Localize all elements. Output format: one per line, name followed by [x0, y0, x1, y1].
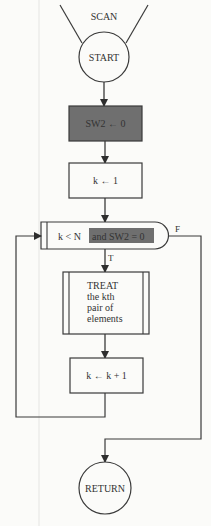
loop-test-condition-plain: k < N [58, 231, 81, 242]
true-branch-label: T [108, 253, 114, 263]
edge-loop-test-false [105, 236, 201, 462]
loop-test-condition-highlighted: and SW2 = 0 [92, 231, 145, 242]
return-node: RETURN [79, 462, 131, 514]
treat-line-2: the kth [87, 291, 115, 302]
increment-node: k ← k + 1 [70, 358, 143, 393]
init-sw2-label: SW2 ← 0 [86, 118, 126, 129]
loop-test-node: k < N and SW2 = 0 [41, 222, 169, 249]
start-node: START [79, 32, 129, 82]
start-label: START [89, 52, 119, 63]
increment-label: k ← k + 1 [86, 370, 127, 381]
treat-line-4: elements [87, 313, 123, 324]
flowchart: SCAN START SW2 ← 0 k ← 1 k < N and SW2 =… [0, 0, 211, 526]
init-k-node: k ← 1 [69, 163, 142, 198]
return-label: RETURN [85, 483, 125, 494]
init-sw2-node: SW2 ← 0 [69, 106, 142, 141]
treat-line-3: pair of [87, 302, 114, 313]
diagram-title: SCAN [91, 11, 118, 22]
init-k-label: k ← 1 [93, 175, 118, 186]
treat-node: TREAT the kth pair of elements [63, 272, 149, 334]
false-branch-label: F [175, 224, 180, 234]
treat-line-1: TREAT [87, 280, 118, 291]
